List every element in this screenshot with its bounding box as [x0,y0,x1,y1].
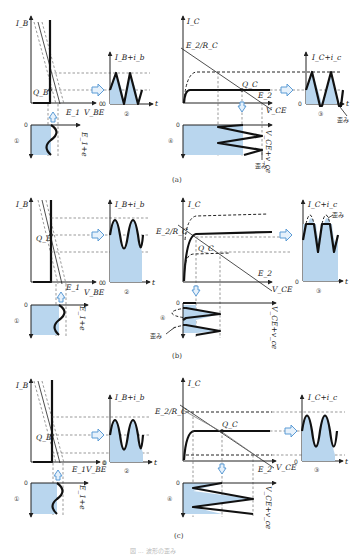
y-axis-label: I_C [186,17,200,26]
vce-wave-b: 0 ④ V_CE+v_ce 歪み [150,299,279,350]
wave-number: ③ [316,287,321,294]
panel-a: I_B 0 V_BE E_1 Q_B 0 ① E_1+e [14,16,350,184]
t-label: t [152,278,156,287]
e1-label: E_1 [71,465,86,474]
zero-label: 0 [24,121,28,128]
wave-label: E_1+e [78,305,87,331]
wave-label: V_CE+v_ce [264,486,273,530]
y-axis-label: I_C [187,200,201,209]
arrow-down-icon [218,464,226,474]
zero-label: 0 [102,459,106,466]
collector-wave-b: I_C+i_c 0 t ③ 歪み [295,200,349,294]
wave-label: I_C+i_c [307,393,338,402]
wave-number: ① [14,495,19,502]
wave-label: I_C+i_c [311,53,342,62]
base-wave-b: I_B+i_b 0 t ② [102,200,156,295]
t-label: t [345,277,349,286]
panel-label: (c) [174,532,184,540]
x-axis-label: V_CE [266,106,287,115]
wave-label: I_B+i_b [114,200,145,209]
collector-wave-a: I_C+i_c 0 t ③ 歪み [298,52,350,124]
wave-number: ② [124,288,129,295]
input-wave-a: 0 ① E_1+e [14,121,89,158]
wave-number: ① [14,317,19,324]
base-wave-c: I_B+i_b 0 t ② [102,393,158,474]
panel-label: (b) [172,352,182,360]
wave-number: ④ [167,495,172,502]
e1-label: E_1 [65,108,80,117]
wave-number: ③ [318,110,323,117]
arrow-right-icon [92,229,104,241]
wave-number: ③ [314,466,319,473]
t-label: t [345,457,349,466]
wave-label: I_C+i_c [307,200,338,209]
y-axis-label: I_B [15,200,29,209]
panel-b: I_B 0 V_BE E_1 Q_B 0 ① E_1+e [14,198,349,360]
vce-wave-c: 0 ④ V_CE+v_ce [167,479,276,530]
zero-label: 0 [176,299,180,306]
figure-canvas: I_B 0 V_BE E_1 Q_B 0 ① E_1+e [0,0,360,556]
zero-label: 0 [294,458,298,465]
wave-number: ② [124,110,129,117]
x-axis-label: V_BE [84,288,105,297]
zero-label: 0 [102,100,106,107]
y-axis-label: I_B [15,381,29,390]
distortion-label: 歪み [255,162,267,170]
arrow-right-icon [280,229,292,241]
t-label: t [346,99,350,108]
distortion-label: 歪み [150,332,162,340]
panel-label: (a) [172,176,182,184]
wave-number: ① [14,137,19,144]
wave-label: I_B+i_b [114,53,145,62]
distortion-label: 歪み [337,116,349,124]
qb-label: Q_B [33,88,49,97]
input-wave-b: 0 ① E_1+e [14,301,88,338]
zero-label: 0 [295,278,299,285]
wave-label: E_1+e [80,131,89,157]
zero-label: 0 [24,479,28,486]
arrow-down-icon [192,286,200,296]
zero-label: 0 [176,121,180,128]
intercept-y-label: E_2/R_C [185,41,218,50]
wave-number: ② [124,467,129,474]
zero-label: 0 [298,100,302,107]
arrow-up-icon [57,292,65,302]
distortion-label: 歪み [332,211,344,219]
intercept-x-label: E_2 [257,91,272,100]
figure-caption: 図 ... 波形の歪み [130,547,176,555]
zero-label: 0 [24,301,28,308]
t-label: t [154,458,158,467]
wave-label: E_1+e [78,484,87,510]
arrow-right-icon [92,84,104,96]
arrow-right-icon [92,429,104,441]
qc-label: Q_C [242,80,258,89]
x-axis-label: V_CE [272,285,293,294]
arrow-right-icon [281,84,293,96]
intercept-x-label: E_2 [257,269,272,278]
arrow-up-icon [49,112,57,122]
qc-label: Q_C [222,420,238,429]
input-wave-c: 0 ① E_1+e [14,479,88,517]
wave-label: V_CE+v_ce [270,306,279,350]
arrow-right-icon [285,425,297,437]
intercept-x-label: E_2 [257,465,272,474]
wave-label: I_B+i_b [114,393,145,402]
t-label: t [155,99,159,108]
x-axis-label: V_BE [86,465,107,474]
intercept-y-label: E_2/R_C [154,407,187,416]
vce-wave-a: 0 ④ V_CE+v_ce 歪み [168,121,273,174]
base-wave-a: I_B+i_b 0 t ② [102,52,159,117]
panel-c: I_B 0 V_BE E_1 Q_B 0 ① E_1+e [14,378,349,540]
x-axis-label: V_BE [84,108,105,117]
zero-label: 0 [176,479,180,486]
arrow-up-icon [54,470,62,480]
wave-number: ④ [168,137,173,144]
y-axis-label: I_B [15,19,29,28]
qb-label: Q_B [36,433,52,442]
e1-label: E_1 [65,283,80,292]
zero-label: 0 [102,279,106,286]
collector-wave-c: I_C+i_c 0 t ③ [294,393,349,473]
wave-number: ④ [160,314,165,321]
y-axis-label: I_C [187,379,201,388]
